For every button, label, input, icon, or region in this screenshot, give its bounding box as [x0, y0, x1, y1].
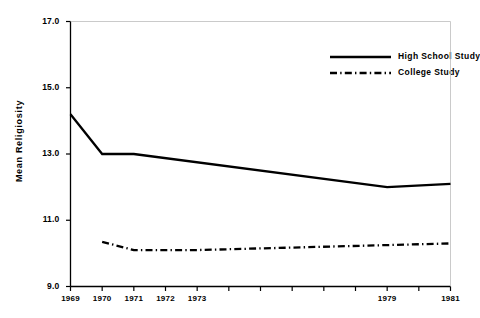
y-axis-tick-marks: [66, 22, 71, 287]
series-lines: [71, 114, 451, 250]
x-axis-tick-marks: [71, 287, 451, 292]
legend-swatches: [330, 57, 391, 73]
series-line-2: [102, 242, 450, 250]
series-line-1: [71, 114, 451, 187]
